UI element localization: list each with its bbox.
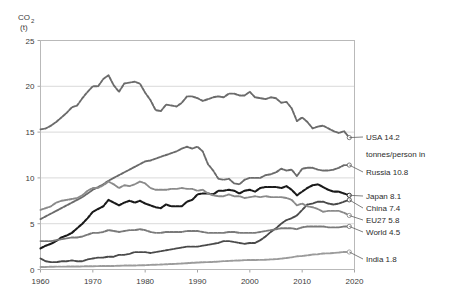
legend-label-world: World 4.5 bbox=[366, 228, 401, 237]
y-tick-label: 5 bbox=[30, 220, 35, 229]
y-axis-title-group: CO 2 (t) bbox=[18, 13, 35, 32]
x-tick-label: 2020 bbox=[346, 277, 364, 286]
series-endpoint-russia bbox=[347, 163, 351, 167]
y-tick-label: 0 bbox=[30, 266, 35, 275]
leader-line-russia bbox=[349, 165, 363, 172]
y-tick-label: 25 bbox=[26, 37, 35, 46]
series-endpoint-world bbox=[347, 224, 351, 228]
legend-label-india: India 1.8 bbox=[366, 255, 397, 264]
y-axis-title-subscript: 2 bbox=[31, 18, 35, 24]
co2-per-capita-chart: CO 2 (t) 0510152025 19601970198019902000… bbox=[0, 0, 450, 299]
legend-label-japan: Japan 8.1 bbox=[366, 192, 402, 201]
y-axis-title-unit: (t) bbox=[20, 23, 28, 32]
x-tick-label: 1980 bbox=[136, 277, 154, 286]
x-tick-label: 1970 bbox=[84, 277, 102, 286]
x-tick-label: 1960 bbox=[32, 277, 50, 286]
legend-label-eu27: EU27 5.8 bbox=[366, 216, 400, 225]
y-axis-ticks: 0510152025 bbox=[26, 37, 41, 275]
y-tick-label: 10 bbox=[26, 174, 35, 183]
leader-line-india bbox=[349, 252, 363, 259]
series-line-world bbox=[41, 226, 350, 241]
y-tick-label: 20 bbox=[26, 82, 35, 91]
legend: USA 14.2tonnes/person inRussia 10.8Japan… bbox=[366, 133, 425, 264]
legend-label-usa: USA 14.2 bbox=[366, 133, 400, 142]
series-line-usa bbox=[41, 75, 350, 137]
x-tick-label: 1990 bbox=[189, 277, 207, 286]
x-tick-label: 2010 bbox=[293, 277, 311, 286]
series-endpoint-india bbox=[347, 250, 351, 254]
series-line-eu27 bbox=[41, 182, 350, 216]
y-axis-title-co2: CO bbox=[18, 13, 30, 22]
y-tick-label: 15 bbox=[26, 128, 35, 137]
gridlines bbox=[41, 86, 355, 223]
leader-line-china bbox=[349, 200, 363, 208]
series-endpoint-china bbox=[347, 198, 351, 202]
legend-label-china: China 7.4 bbox=[366, 204, 401, 213]
leader-line-world bbox=[349, 226, 363, 232]
leader-line-eu27 bbox=[349, 216, 363, 221]
x-axis-ticks: 1960197019801990200020102020 bbox=[32, 270, 364, 286]
series-lines bbox=[41, 75, 352, 267]
x-tick-label: 2000 bbox=[241, 277, 259, 286]
series-endpoint-eu27 bbox=[347, 213, 351, 217]
legend-label-unit-note: tonnes/person in bbox=[366, 150, 425, 159]
chart-canvas: CO 2 (t) 0510152025 19601970198019902000… bbox=[0, 0, 450, 299]
legend-label-russia: Russia 10.8 bbox=[366, 168, 409, 177]
legend-leader-lines bbox=[349, 137, 363, 259]
